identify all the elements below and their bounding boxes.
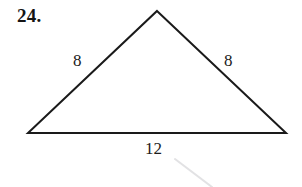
right-side-length-label: 8 <box>224 52 233 69</box>
base-side-length-label: 12 <box>145 140 162 157</box>
geometry-figure-container: 24. 8 8 12 <box>0 0 302 187</box>
left-side-length-label: 8 <box>73 52 82 69</box>
triangle-diagram-svg <box>0 0 302 187</box>
scan-smudge-line <box>175 159 212 187</box>
triangle-shape <box>28 11 286 133</box>
problem-number-label: 24. <box>17 6 41 25</box>
